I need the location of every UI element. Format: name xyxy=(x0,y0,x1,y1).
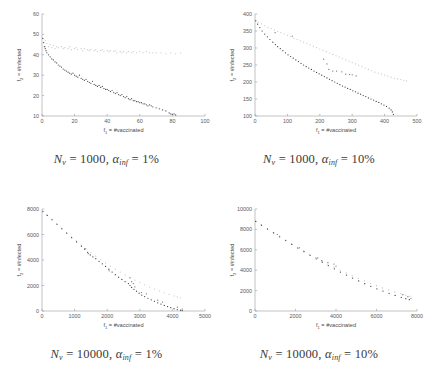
data-point xyxy=(94,84,95,85)
data-point xyxy=(261,23,262,24)
x-tick-label: 2000 xyxy=(290,313,302,319)
data-point xyxy=(90,252,91,253)
x-tick-label: 0 xyxy=(254,313,257,319)
data-point xyxy=(81,246,82,247)
data-point xyxy=(293,58,294,59)
data-point xyxy=(84,48,85,49)
data-point xyxy=(154,301,155,302)
data-point xyxy=(395,295,396,296)
data-point xyxy=(66,233,67,234)
x-axis-label: f1 = #vaccinated xyxy=(103,127,143,135)
data-point xyxy=(313,71,314,72)
y-tick-label: 2000 xyxy=(240,288,252,294)
data-point xyxy=(71,237,72,238)
data-point xyxy=(349,74,350,75)
data-point xyxy=(102,86,103,87)
data-point xyxy=(277,31,278,32)
data-point xyxy=(326,63,327,64)
x-tick-label: 5000 xyxy=(199,313,211,319)
data-point xyxy=(169,112,170,113)
data-point xyxy=(134,286,135,287)
data-point xyxy=(76,76,77,77)
data-point xyxy=(397,78,398,79)
data-point xyxy=(405,294,406,295)
data-point xyxy=(328,69,329,70)
data-point xyxy=(77,49,78,50)
data-point xyxy=(321,75,322,76)
data-point xyxy=(340,271,341,272)
caption-c-n-eq: = xyxy=(66,347,77,361)
data-point xyxy=(308,67,309,68)
data-point xyxy=(115,93,116,94)
data-point xyxy=(358,278,359,279)
data-point xyxy=(131,98,132,99)
x-tick-label: 200 xyxy=(315,118,324,124)
data-point xyxy=(77,77,78,78)
data-point xyxy=(376,285,377,286)
data-point xyxy=(383,105,384,106)
series-lower-curve xyxy=(42,211,182,311)
caption-a-n-sub: v xyxy=(62,158,66,167)
panel-d: 020004000600080000200040006000800010000f… xyxy=(213,195,425,390)
x-tick-label: 500 xyxy=(413,118,422,124)
data-point xyxy=(388,293,389,294)
data-point xyxy=(267,36,268,37)
data-point xyxy=(61,46,62,47)
y-tick-label: 4000 xyxy=(240,267,252,273)
data-point xyxy=(95,256,96,257)
data-point xyxy=(287,54,288,55)
data-point xyxy=(170,52,171,53)
caption-b-n-eq: = xyxy=(279,152,290,166)
x-label-suffix: = #vaccinated xyxy=(320,322,356,328)
series-scatter-outliers xyxy=(274,32,356,76)
data-point xyxy=(164,305,165,306)
data-point xyxy=(406,80,407,81)
plot-b-area: 0100200300400500100150200250300350400f1 … xyxy=(213,0,425,150)
data-point xyxy=(67,72,68,73)
caption-d-n-eq: = xyxy=(275,347,286,361)
data-point xyxy=(154,288,155,289)
data-point xyxy=(277,46,278,47)
data-point xyxy=(76,241,77,242)
y-tick-label: 10 xyxy=(33,113,39,119)
data-point xyxy=(271,28,272,29)
x-tick-label: 20 xyxy=(72,118,78,124)
data-point xyxy=(339,57,340,58)
x-axis-label: f1 = #vaccinated xyxy=(103,322,143,330)
data-point xyxy=(345,59,346,60)
data-point xyxy=(368,69,369,70)
data-point xyxy=(82,79,83,80)
data-point xyxy=(393,114,394,115)
data-point xyxy=(321,260,322,261)
data-point xyxy=(374,72,375,73)
data-point xyxy=(56,46,57,47)
data-point xyxy=(378,73,379,74)
data-point xyxy=(370,98,371,99)
data-point xyxy=(115,50,116,51)
data-point xyxy=(71,49,72,50)
data-point xyxy=(149,286,150,287)
data-point xyxy=(279,236,280,237)
data-point xyxy=(382,287,383,288)
data-point xyxy=(255,221,256,222)
series-upper-cloud xyxy=(43,40,181,55)
data-point xyxy=(105,262,106,263)
data-point xyxy=(370,286,371,287)
x-tick-label: 2000 xyxy=(101,313,113,319)
data-point xyxy=(344,86,345,87)
data-point xyxy=(131,281,132,282)
axis-lines xyxy=(255,14,417,116)
data-point xyxy=(295,59,296,60)
data-point xyxy=(322,50,323,51)
x-tick-label: 3000 xyxy=(134,313,146,319)
data-point xyxy=(89,82,90,83)
x-tick-label: 1000 xyxy=(69,313,81,319)
data-point xyxy=(72,73,73,74)
data-point xyxy=(133,289,134,290)
data-point xyxy=(357,93,358,94)
data-point xyxy=(159,290,160,291)
data-point xyxy=(332,54,333,55)
data-point xyxy=(50,44,51,45)
data-point xyxy=(390,77,391,78)
caption-d-n-value: 10000 xyxy=(286,347,318,361)
